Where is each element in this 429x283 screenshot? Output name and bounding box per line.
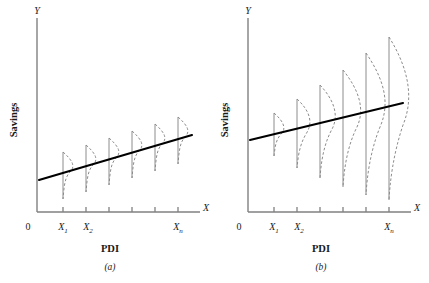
panel-a-bell-curve-6	[178, 117, 188, 164]
panel-a-tick-label-x1: X1	[57, 221, 68, 235]
panel-b-distribution-4	[343, 70, 361, 187]
panel-a-distribution-3	[109, 138, 119, 185]
panel-a-distribution-1	[63, 152, 73, 199]
panel-b-bell-curve-6	[389, 37, 409, 200]
panel-b-tick-label-x2: X2	[293, 221, 304, 235]
panel-b-regression-line	[250, 103, 403, 140]
panel-b-y-axis-tip-label: Y	[245, 5, 252, 16]
panel-a-bell-curve-1	[63, 152, 73, 199]
panel-b-distribution-6	[389, 37, 409, 200]
panel-b-tick-label-xn: Xn	[383, 221, 394, 235]
panel-b-bell-curve-4	[343, 70, 361, 187]
figure-container: Y X 0 X1 X2 Xn Savings PDI (a)	[0, 0, 429, 283]
panel-b-x-tick-labels: X1 X2 Xn	[268, 221, 394, 235]
econometrics-figure-svg: Y X 0 X1 X2 Xn Savings PDI (a)	[0, 0, 429, 283]
panel-b-bell-curve-5	[366, 53, 385, 195]
panel-a-tick-label-xn: Xn	[172, 221, 183, 235]
panel-a-bell-curve-2	[86, 145, 96, 192]
panel-a-caption: (a)	[104, 262, 115, 273]
panel-a: Y X 0 X1 X2 Xn Savings PDI (a)	[8, 5, 210, 273]
panel-a-regression-line	[39, 135, 192, 180]
panel-a-tick-label-x2: X2	[82, 221, 93, 235]
panel-b-bell-curve-2	[297, 99, 310, 168]
panel-b-distribution-3	[320, 85, 335, 178]
panel-a-x-axis-title: PDI	[101, 243, 119, 254]
panel-b-distribution-2	[297, 99, 310, 168]
panel-b-x-ticks	[274, 207, 389, 212]
panel-a-bell-curve-4	[132, 131, 142, 178]
panel-a-bell-curve-5	[155, 124, 165, 171]
panel-a-y-axis-tip-label: Y	[34, 5, 41, 16]
panel-b-x-axis-title: PDI	[312, 243, 330, 254]
panel-a-distribution-6	[178, 117, 188, 164]
panel-a-conditional-distributions	[63, 117, 188, 199]
panel-a-y-axis-title: Savings	[8, 103, 19, 137]
panel-b-caption: (b)	[315, 262, 326, 273]
panel-b-origin-label: 0	[237, 221, 242, 232]
panel-a-distribution-5	[155, 124, 165, 171]
panel-b-tick-label-x1: X1	[268, 221, 279, 235]
panel-a-distribution-2	[86, 145, 96, 192]
panel-a-x-axis-tip-label: X	[202, 202, 210, 213]
panel-a-x-ticks	[63, 207, 178, 212]
panel-a-distribution-4	[132, 131, 142, 178]
panel-a-x-tick-labels: X1 X2 Xn	[57, 221, 183, 235]
panel-b-y-axis-title: Savings	[219, 103, 230, 137]
panel-b-x-axis-tip-label: X	[413, 202, 421, 213]
panel-a-origin-label: 0	[26, 221, 31, 232]
panel-b-distribution-5	[366, 53, 385, 195]
panel-b-bell-curve-3	[320, 85, 335, 178]
panel-b: Y X 0 X1 X2 Xn Savings PDI (b)	[219, 5, 421, 273]
panel-a-bell-curve-3	[109, 138, 119, 185]
